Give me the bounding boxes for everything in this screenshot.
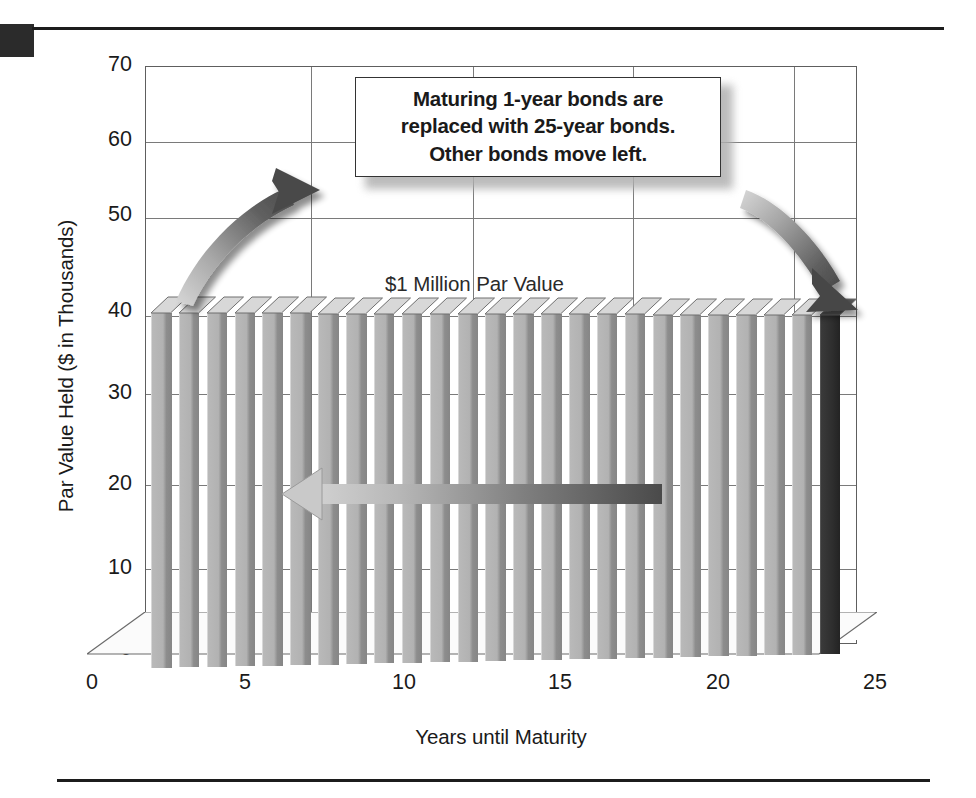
x-tick-5: 5 — [210, 672, 280, 694]
bar-year-14 — [513, 298, 533, 660]
bar-top-cap — [513, 298, 533, 660]
bar-year-17 — [597, 298, 617, 658]
bar-year-6 — [290, 297, 310, 665]
bar-top-cap — [207, 297, 227, 667]
bar-top-cap — [680, 299, 700, 657]
bar-top-cap — [290, 297, 310, 665]
bar-top-cap — [708, 299, 728, 657]
bar-year-1 — [151, 297, 171, 668]
x-tick-15: 15 — [525, 672, 595, 694]
bar-top-cap — [430, 298, 450, 662]
bar-year-12 — [458, 298, 478, 662]
bar-year-7 — [318, 298, 338, 665]
callout-line-1: Maturing 1-year bonds are — [413, 85, 663, 112]
x-tick-0: 0 — [57, 672, 127, 694]
bar-top-cap — [402, 298, 422, 663]
bar-year-21 — [708, 299, 728, 657]
bar-year-23 — [764, 299, 784, 655]
bar-top-cap — [792, 299, 812, 655]
x-axis-tick-labels: 0 5 10 15 20 25 — [0, 672, 976, 706]
bar-top-cap — [262, 297, 282, 665]
bar-top-cap — [653, 299, 673, 658]
bar-year-16 — [569, 298, 589, 659]
x-tick-20: 20 — [683, 672, 753, 694]
bar-top-cap — [151, 297, 171, 668]
bar-top-cap — [318, 298, 338, 665]
bar-year-22 — [736, 299, 756, 656]
bar-year-8 — [346, 298, 366, 664]
bar-year-5 — [262, 297, 282, 665]
x-axis-title: Years until Maturity — [145, 725, 857, 749]
bar-year-3 — [207, 297, 227, 667]
bar-year-15 — [541, 298, 561, 660]
bar-year-4 — [235, 297, 255, 666]
bar-year-11 — [430, 298, 450, 662]
bar-top-cap — [235, 297, 255, 666]
bar-top-cap — [346, 298, 366, 664]
bar-top-cap — [820, 299, 840, 654]
bar-top-cap — [569, 298, 589, 659]
bar-year-24 — [792, 299, 812, 655]
bar-top-cap — [625, 298, 645, 658]
bar-top-cap — [541, 298, 561, 660]
bar-top-cap — [179, 297, 199, 667]
bar-top-cap — [764, 299, 784, 655]
callout-line-3: Other bonds move left. — [429, 140, 647, 167]
callout-line-2: replaced with 25-year bonds. — [401, 112, 675, 139]
bar-year-18 — [625, 298, 645, 658]
x-tick-10: 10 — [369, 672, 439, 694]
chart-page: Par Value Held ($ in Thousands) 70 60 50… — [0, 0, 976, 798]
bar-year-19 — [653, 299, 673, 658]
bar-top-cap — [736, 299, 756, 656]
bar-top-cap — [374, 298, 394, 664]
bar-year-20 — [680, 299, 700, 657]
bar-top-cap — [458, 298, 478, 662]
bar-year-9 — [374, 298, 394, 664]
bar-year-25 — [820, 299, 840, 654]
bar-year-13 — [485, 298, 505, 661]
bar-top-cap — [597, 298, 617, 658]
bar-top-cap — [485, 298, 505, 661]
bar-year-2 — [179, 297, 199, 667]
callout-box: Maturing 1-year bonds are replaced with … — [355, 77, 721, 177]
bar-year-10 — [402, 298, 422, 663]
x-tick-25: 25 — [840, 672, 910, 694]
